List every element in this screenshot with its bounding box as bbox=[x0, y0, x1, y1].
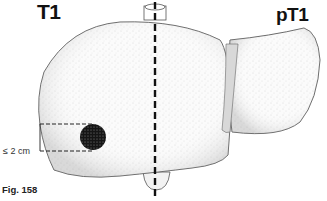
figure-caption: Fig. 158 bbox=[2, 184, 37, 195]
liver-illustration bbox=[0, 0, 327, 201]
stage-label-t1: T1 bbox=[37, 0, 61, 24]
size-annotation: ≤ 2 cm bbox=[3, 146, 30, 156]
gallbladder bbox=[143, 172, 170, 190]
tumor bbox=[80, 124, 106, 150]
stage-label-pt1: pT1 bbox=[276, 4, 308, 26]
